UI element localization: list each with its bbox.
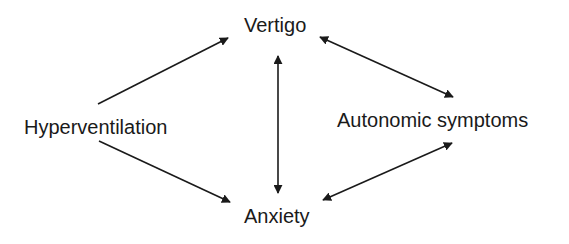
edge-hyperventilation-to-vertigo: [98, 38, 228, 104]
node-autonomic-symptoms: Autonomic symptoms: [337, 110, 528, 130]
diagram-canvas: Vertigo Hyperventilation Autonomic sympt…: [0, 0, 569, 244]
edge-vertigo-autonomic: [320, 37, 453, 97]
node-hyperventilation: Hyperventilation: [24, 117, 167, 137]
edge-autonomic-anxiety: [323, 143, 452, 200]
node-vertigo: Vertigo: [244, 15, 306, 35]
edge-hyperventilation-to-anxiety: [99, 141, 230, 202]
node-anxiety: Anxiety: [244, 206, 310, 226]
